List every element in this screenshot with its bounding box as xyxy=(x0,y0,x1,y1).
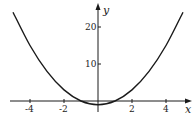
x-tick-label: -4 xyxy=(25,104,34,114)
x-tick-label: -2 xyxy=(59,104,68,114)
y-axis-label: y xyxy=(102,4,110,17)
y-tick-label: 10 xyxy=(85,59,97,69)
chart: -4 -2 2 4 10 20 x y xyxy=(0,0,195,115)
x-axis-label: x xyxy=(185,103,192,115)
x-tick-label: 4 xyxy=(163,104,169,114)
y-axis-arrow-icon xyxy=(96,3,101,10)
x-tick-label: 2 xyxy=(129,104,135,114)
y-tick-label: 20 xyxy=(85,22,97,32)
